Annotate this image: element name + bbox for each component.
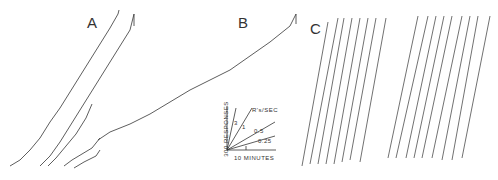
x-axis-label: 10 MINUTES [234,155,274,161]
panel-label-b: B [238,14,248,31]
rate-label-3: 3 [234,120,238,126]
panel-c-records [302,16,490,166]
rate-label-1: 1 [242,124,246,130]
figure-canvas [0,0,498,180]
rate-title: R's/SEC [252,107,278,113]
panel-label-a: A [87,14,97,31]
panel-label-c: C [310,20,321,37]
rate-label-0-5: 0.5 [254,128,264,134]
panel-a-records [10,10,296,168]
y-axis-label: 300 RESPONSES [223,101,229,157]
rate-label-0-25: 0.25 [258,138,272,144]
